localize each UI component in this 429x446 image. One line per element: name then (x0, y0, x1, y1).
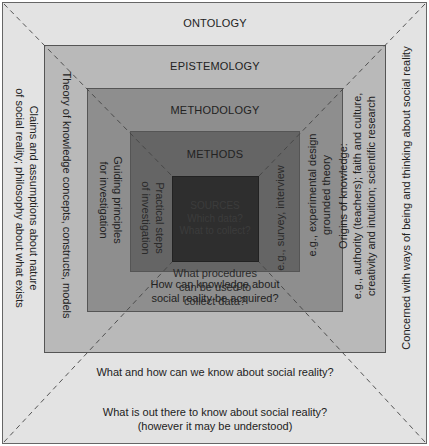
sources-title: SOURCES (179, 200, 250, 213)
sources-line2: What to collect? (179, 225, 250, 238)
methodology-right-line2: grounded theory (320, 134, 334, 257)
epistemology-right-line2: e.g., authority (teachers); faith and cu… (351, 93, 365, 300)
methods-bottom-line1: What procedures (173, 267, 257, 281)
ontology-bottom-line1: What is out there to know about social r… (103, 406, 327, 420)
sources-line1: Which data? (179, 213, 250, 226)
methodology-title: METHODOLOGY (171, 104, 260, 118)
methods-bottom-line2: can be used to (173, 281, 257, 295)
epistemology-right-line3: creativity and intuition; scientific res… (365, 93, 379, 300)
ontology-title: ONTOLOGY (183, 17, 247, 31)
ontology-left-line1: Claims and assumptions about nature (26, 88, 40, 308)
ontology-bottom-line2: (however it may be understood) (103, 420, 327, 434)
ontology-left-line2: of social reality; philosophy about what… (12, 88, 26, 308)
methodology-left-line2: for investigation (96, 156, 110, 243)
methods-bottom-text: What procedures can be used to collect d… (173, 267, 257, 308)
methodology-left-line1: Guiding principles (110, 156, 124, 243)
methods-left-line2: of investigation (138, 181, 152, 254)
methodology-right-line1: e.g., experimental design (306, 134, 320, 257)
methods-title: METHODS (187, 148, 243, 162)
epistemology-bottom-text: What and how can we know about social re… (96, 366, 333, 380)
epistemology-right-line1: Origins of knowledge: (337, 93, 351, 300)
methods-left-line1: Practical steps (152, 181, 166, 254)
ontology-bottom-text: What is out there to know about social r… (103, 406, 327, 434)
ontology-right-text: Concerned with ways of being and thinkin… (400, 46, 414, 349)
methods-bottom-line3: collect data? (173, 295, 257, 309)
methods-left-text: Practical steps of investigation (138, 181, 166, 254)
epistemology-left-text: Theory of knowledge concepts, constructs… (59, 71, 73, 318)
methodology-left-text: Guiding principles for investigation (96, 156, 124, 243)
epistemology-title: EPISTEMOLOGY (170, 60, 260, 74)
sources-text: SOURCES Which data? What to collect? (179, 200, 250, 238)
ontology-left-text: Claims and assumptions about nature of s… (12, 88, 40, 308)
epistemology-right-text: Origins of knowledge: e.g., authority (t… (337, 93, 378, 300)
methodology-right-text: e.g., experimental design grounded theor… (306, 134, 334, 257)
methods-right-text: e.g., survey, interview (274, 165, 288, 271)
